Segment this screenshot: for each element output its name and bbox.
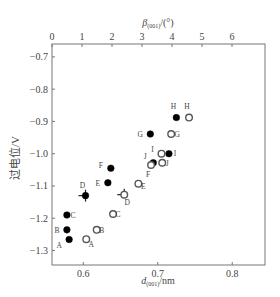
top-tick-label: 4 xyxy=(170,31,175,42)
open-point xyxy=(148,162,155,169)
filled-point xyxy=(173,114,180,121)
top-tick-label: 2 xyxy=(110,31,115,42)
point-label: B xyxy=(54,226,59,235)
filled-point xyxy=(82,192,89,199)
point-label: C xyxy=(116,210,121,219)
filled-point xyxy=(66,236,73,243)
y-tick-label: −1.0 xyxy=(30,148,48,159)
point-label: F xyxy=(99,161,103,170)
point-label: J xyxy=(144,152,147,161)
filled-point xyxy=(147,131,154,138)
axes: −0.7−0.8−0.9−1.0−1.1−1.2−1.30.60.70.8012… xyxy=(30,31,265,279)
point-label: E xyxy=(96,179,101,188)
point-label: I xyxy=(151,145,154,154)
y-tick-label: −1.2 xyxy=(30,213,48,224)
y-axis-label: 过电位/V xyxy=(8,136,21,180)
open-point xyxy=(158,150,165,157)
open-point xyxy=(159,159,166,166)
point-label: H xyxy=(171,102,177,111)
point-label: J xyxy=(166,159,169,168)
point-label: E xyxy=(141,182,146,191)
y-tick-label: −1.1 xyxy=(30,180,48,191)
top-tick-label: 1 xyxy=(80,31,85,42)
top-tick-label: 0 xyxy=(50,31,55,42)
y-tick-label: −0.9 xyxy=(30,116,48,127)
y-tick-label: −0.7 xyxy=(30,51,48,62)
open-point xyxy=(186,114,193,121)
filled-point xyxy=(64,227,71,234)
y-tick-label: −1.3 xyxy=(30,245,48,256)
filled-point xyxy=(166,150,173,157)
top-tick-label: 3 xyxy=(140,31,145,42)
filled-point xyxy=(64,212,71,219)
point-label: F xyxy=(146,170,150,179)
point-label: A xyxy=(89,240,95,249)
x-tick-label: 0.8 xyxy=(226,268,239,279)
point-label: D xyxy=(125,198,131,207)
point-label: C xyxy=(70,211,75,220)
y-tick-label: −0.8 xyxy=(30,84,48,95)
point-label: A xyxy=(56,241,62,250)
point-label: D xyxy=(80,181,86,190)
data-points: ABCDEFGHIJABCDEFGHIJ xyxy=(54,102,192,250)
top-tick-label: 5 xyxy=(200,31,205,42)
point-label: H xyxy=(184,102,190,111)
top-tick-label: 6 xyxy=(230,31,235,42)
point-label: B xyxy=(99,226,104,235)
point-label: G xyxy=(138,130,144,139)
top-axis-label: β(001)/(°) xyxy=(141,17,173,30)
scatter-chart: −0.7−0.8−0.9−1.0−1.1−1.2−1.30.60.70.8012… xyxy=(0,0,280,297)
point-label: G xyxy=(174,130,180,139)
x-tick-label: 0.6 xyxy=(77,268,90,279)
point-label: I xyxy=(174,149,177,158)
filled-point xyxy=(105,179,112,186)
filled-point xyxy=(108,165,115,172)
